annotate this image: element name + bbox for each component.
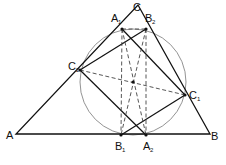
triangle-abc xyxy=(16,5,210,134)
point-a2 xyxy=(144,133,147,136)
label-c: C xyxy=(133,1,141,13)
point-c1 xyxy=(183,93,186,96)
label-b2-sub: 2 xyxy=(152,19,156,25)
point-b2 xyxy=(144,27,147,30)
label-c1: C xyxy=(189,89,197,101)
vertices xyxy=(78,27,186,136)
label-a: A xyxy=(6,129,14,141)
point-center xyxy=(131,80,134,83)
geometry-diagram: A B C A 1 B 2 C 2 C 1 B 1 A 2 xyxy=(0,0,226,165)
label-b1-sub: 1 xyxy=(122,147,126,153)
point-b1 xyxy=(119,133,122,136)
label-c2: C xyxy=(68,60,76,72)
label-a2-sub: 2 xyxy=(150,147,154,153)
label-c1-sub: 1 xyxy=(197,96,201,102)
label-b: B xyxy=(211,130,218,142)
point-a1 xyxy=(120,27,123,30)
